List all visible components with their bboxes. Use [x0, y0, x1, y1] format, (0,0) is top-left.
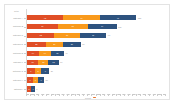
- x-axis-tick: [161, 94, 162, 96]
- bar-row[interactable]: 549: [27, 86, 35, 91]
- x-axis-tick: [112, 94, 113, 96]
- x-axis-tick: [87, 94, 88, 96]
- x-axis-tick: [136, 94, 137, 96]
- y-axis-tick: [24, 89, 26, 90]
- bar-total-label: 63: [82, 43, 84, 45]
- bar-total-label: 43: [65, 52, 67, 54]
- x-axis-tick: [59, 94, 60, 96]
- y-axis-label: Category G: [7, 70, 23, 72]
- x-axis-tick: [51, 94, 52, 96]
- bar-segment-label: 21: [71, 43, 73, 45]
- x-axis-tick: [132, 94, 133, 96]
- bar-segment-label: 43: [80, 17, 82, 19]
- x-axis-tick: [128, 94, 129, 96]
- bar-segment[interactable]: 12: [48, 60, 58, 65]
- bar-segment-label: 14: [44, 52, 46, 54]
- top-header-label: Total: [14, 10, 19, 12]
- y-axis-label: Category D: [7, 43, 23, 45]
- bar-segment-label: 22: [35, 43, 37, 45]
- x-axis-tick: [140, 94, 141, 96]
- bar-row[interactable]: 76720: [27, 77, 44, 82]
- bar-segment[interactable]: 42: [27, 15, 63, 20]
- bar-segment[interactable]: 43: [63, 15, 100, 20]
- bar-segment-label: 8: [38, 70, 39, 72]
- bar-segment[interactable]: 43: [100, 15, 137, 20]
- bar-segment-label: 13: [31, 61, 33, 63]
- x-axis-tick: [96, 94, 97, 96]
- bar-segment[interactable]: 15: [51, 51, 64, 56]
- bar-total-label: 20: [46, 79, 48, 81]
- y-axis-tick: [24, 44, 26, 45]
- bar-segment[interactable]: 4: [31, 86, 34, 91]
- bar-segment-label: 4: [32, 88, 33, 90]
- y-axis-tick: [24, 53, 26, 54]
- bar-segment[interactable]: 14: [39, 51, 51, 56]
- bar-segment[interactable]: 8: [35, 68, 42, 73]
- y-axis-tick: [24, 62, 26, 63]
- bar-row[interactable]: 14141543: [27, 51, 64, 56]
- bar-segment-label: 43: [117, 17, 119, 19]
- bar-segment-label: 5: [29, 88, 30, 90]
- bar-segment-label: 31: [92, 34, 94, 36]
- bar-segment-label: 6: [35, 79, 36, 81]
- bar-segment[interactable]: 21: [63, 42, 81, 47]
- x-axis-tick: [30, 94, 31, 96]
- plot-area: Total Category ACategory BCategory CCate…: [5, 5, 171, 101]
- x-axis-tick: [145, 94, 146, 96]
- bar-segment[interactable]: 20: [46, 42, 63, 47]
- bar-segment-label: 9: [45, 70, 46, 72]
- bar-row[interactable]: 32303193: [27, 33, 106, 38]
- bar-segment[interactable]: 9: [27, 68, 35, 73]
- y-axis-tick: [24, 71, 26, 72]
- bar-row[interactable]: 98926: [27, 68, 49, 73]
- bar-total-label: 9: [36, 88, 37, 90]
- x-axis-tick: [124, 94, 125, 96]
- y-axis-label: Category I: [7, 88, 23, 90]
- bar-segment-label: 42: [44, 17, 46, 19]
- x-axis-tick: [165, 94, 166, 96]
- bar-segment[interactable]: 36: [27, 24, 58, 29]
- y-axis-label: Category A: [7, 17, 23, 19]
- bar-segment-label: 35: [72, 25, 74, 27]
- y-axis-label: Category B: [7, 25, 23, 27]
- bar-total-label: 105: [118, 25, 121, 27]
- bar-segment-label: 14: [32, 52, 34, 54]
- x-axis-tick: [104, 94, 105, 96]
- bar-row[interactable]: 13121237: [27, 60, 59, 65]
- bar-segment-label: 15: [56, 52, 58, 54]
- bar-segment[interactable]: 9: [41, 68, 49, 73]
- x-axis-tick: [75, 94, 76, 96]
- bar-segment[interactable]: 12: [38, 60, 48, 65]
- bar-segment-label: 20: [53, 43, 55, 45]
- bar-segment[interactable]: 30: [54, 33, 80, 38]
- bar-segment-label: 9: [30, 70, 31, 72]
- x-axis-tick: [34, 94, 35, 96]
- bar-segment-label: 12: [42, 61, 44, 63]
- bar-segment[interactable]: 13: [27, 60, 38, 65]
- x-axis-tick: [63, 94, 64, 96]
- y-axis-label: Category H: [7, 79, 23, 81]
- y-axis-tick: [24, 36, 26, 37]
- x-axis-tick: [38, 94, 39, 96]
- bar-segment-label: 30: [66, 34, 68, 36]
- x-axis-tick: [100, 94, 101, 96]
- bar-row[interactable]: 424343128: [27, 15, 136, 20]
- bar-segment[interactable]: 22: [27, 42, 46, 47]
- bar-segment[interactable]: 34: [88, 24, 117, 29]
- x-axis-tick: [157, 94, 158, 96]
- bar-segment-label: 32: [40, 34, 42, 36]
- bar-segment-label: 7: [29, 79, 30, 81]
- bar-segment[interactable]: 32: [27, 33, 54, 38]
- y-axis-label: Category F: [7, 61, 23, 63]
- bar-segment[interactable]: 14: [27, 51, 39, 56]
- x-axis-tick: [83, 94, 84, 96]
- y-axis-tick: [24, 80, 26, 81]
- bar-segment-label: 7: [41, 79, 42, 81]
- bar-segment[interactable]: 31: [80, 33, 106, 38]
- y-axis-label: Category C: [7, 34, 23, 36]
- bar-segment[interactable]: 35: [58, 24, 88, 29]
- x-axis-tick: [116, 94, 117, 96]
- bar-row[interactable]: 22202163: [27, 42, 81, 47]
- bar-segment[interactable]: 7: [38, 77, 44, 82]
- bar-row[interactable]: 363534105: [27, 24, 117, 29]
